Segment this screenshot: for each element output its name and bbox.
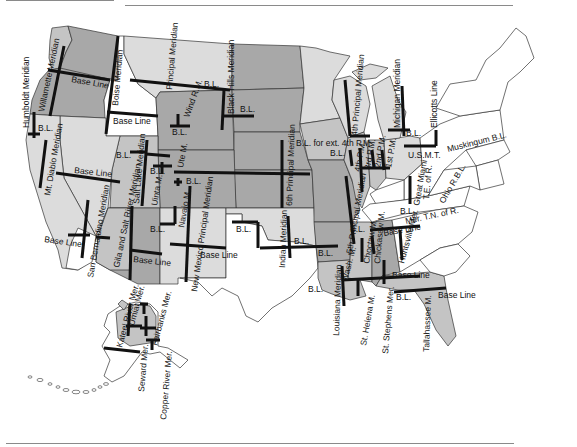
label-bl-mi: B.L. xyxy=(406,128,421,138)
label-st-helena: St. Helena M. xyxy=(358,294,377,346)
label-bl-ute: B.L. xyxy=(186,176,201,186)
label-bl-navajo: B.L. xyxy=(150,224,165,234)
label-bl-al: Base Line xyxy=(438,290,476,300)
label-bl-ms: Base Line xyxy=(392,270,430,280)
label-michigan: Michigan Meridian xyxy=(392,59,402,128)
label-black-hills: Black Hills Meridian xyxy=(226,40,236,114)
label-bl-wind: B.L. xyxy=(172,127,187,137)
label-bl-sl: B.L. xyxy=(116,150,131,160)
label-bl-uinta: B.L. xyxy=(150,166,165,176)
label-copper-river: Copper River Mer. xyxy=(158,351,174,421)
label-st-stephens: St. Stephens Mer. xyxy=(380,286,396,354)
label-bl-stste: B.L. xyxy=(396,292,411,302)
label-bl-tx: B.L. xyxy=(236,224,251,234)
label-bl-mt: B.L. xyxy=(204,79,219,89)
label-bl-humboldt: B.L. xyxy=(38,123,53,133)
us-meridians-map: Humboldt Meridian Willamette Meridian Bo… xyxy=(0,0,577,447)
label-tallahassee: Tallahassee M. xyxy=(421,295,433,352)
label-bl-il: B.L. xyxy=(350,224,365,234)
label-ellicotts: Ellicotts Line xyxy=(429,80,439,128)
label-bl-4th: B.L. xyxy=(330,148,345,158)
label-indian: Indian Meridian xyxy=(277,209,289,268)
label-bl-ext4: B.L. for ext. 4th P.M. xyxy=(296,138,372,148)
label-bl-ar: B.L. xyxy=(318,248,333,258)
region-north-dakota xyxy=(232,44,304,90)
label-bl-usmt: U.S.M.T. xyxy=(408,150,441,160)
label-bl-nm: Base Line xyxy=(200,250,238,260)
label-bl-la: B.L. xyxy=(308,284,323,294)
label-bl-id: Base Line xyxy=(113,116,151,126)
label-humboldt: Humboldt Meridian xyxy=(21,56,31,128)
region-kansas xyxy=(234,170,314,208)
label-louisiana: Louisiana Meridian xyxy=(331,264,343,336)
label-bl-ok: B.L. xyxy=(294,236,309,246)
label-bl-bh: B.L. xyxy=(240,104,255,114)
